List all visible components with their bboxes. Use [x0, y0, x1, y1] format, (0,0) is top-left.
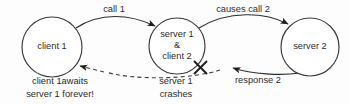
- edge-call-1-line: [76, 17, 155, 29]
- node-client-1[interactable]: client 1: [22, 17, 82, 77]
- edge-blocked-return-segment-left: [80, 66, 104, 72]
- node-client-1-label: client 1: [37, 41, 66, 51]
- edge-label-causes-call-2: causes call 2: [216, 4, 270, 14]
- diagram-canvas: client 1 server 1 & client 2 server 2 ca…: [0, 0, 349, 104]
- edge-causes-call-2: [199, 15, 288, 28]
- node-server-2-label: server 2: [293, 41, 327, 51]
- note-server-1-crashes-line-1: server 1: [159, 76, 193, 86]
- edge-call-1: [76, 17, 155, 29]
- node-server-1-client-2[interactable]: server 1 & client 2: [149, 18, 205, 74]
- edge-label-call-1: call 1: [103, 4, 125, 14]
- node-server-1-client-2-label-line-2: &: [174, 40, 181, 50]
- edge-label-response-2: response 2: [235, 75, 281, 85]
- note-server-1-crashes-line-2: crashes: [160, 89, 193, 99]
- node-server-2[interactable]: server 2: [281, 18, 339, 76]
- note-server-1-crashes: server 1 crashes: [159, 76, 193, 99]
- node-server-1-client-2-label-line-1: server 1: [160, 29, 194, 39]
- node-server-1-client-2-label-line-3: client 2: [162, 51, 191, 61]
- note-client-1: client 1awaits server 1 forever!: [26, 76, 94, 99]
- note-client-1-line-2: server 1 forever!: [26, 89, 94, 99]
- edge-response-2: [233, 68, 300, 74]
- edge-causes-call-2-line: [199, 15, 288, 28]
- crash-x-mark: [194, 61, 207, 74]
- edge-response-2-line: [233, 68, 300, 74]
- diagram-svg: client 1 server 1 & client 2 server 2 ca…: [0, 0, 349, 104]
- note-client-1-line-1: client 1awaits: [32, 76, 88, 86]
